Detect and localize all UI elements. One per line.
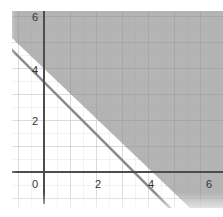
x-tick-label-6: 6 <box>206 178 212 190</box>
inequality-graph: 0 2 4 6 2 4 6 <box>0 0 223 217</box>
bottom-fade <box>0 193 223 217</box>
graph-canvas: 0 2 4 6 2 4 6 <box>0 0 223 217</box>
x-tick-label-0: 0 <box>32 178 38 190</box>
x-tick-label-2: 2 <box>95 178 101 190</box>
x-tick-label-4: 4 <box>148 178 154 190</box>
y-tick-label-2: 2 <box>32 115 38 127</box>
y-tick-label-6: 6 <box>32 11 38 23</box>
y-tick-label-4: 4 <box>32 64 38 76</box>
left-fade <box>0 0 16 217</box>
